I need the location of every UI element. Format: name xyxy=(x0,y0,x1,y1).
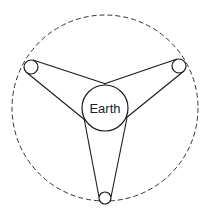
orbital-tether-diagram: Earth xyxy=(0,0,203,212)
pulley-left xyxy=(24,60,38,74)
pulley-right xyxy=(172,59,186,73)
earth-label: Earth xyxy=(89,101,120,116)
pulley-bottom xyxy=(99,192,111,204)
